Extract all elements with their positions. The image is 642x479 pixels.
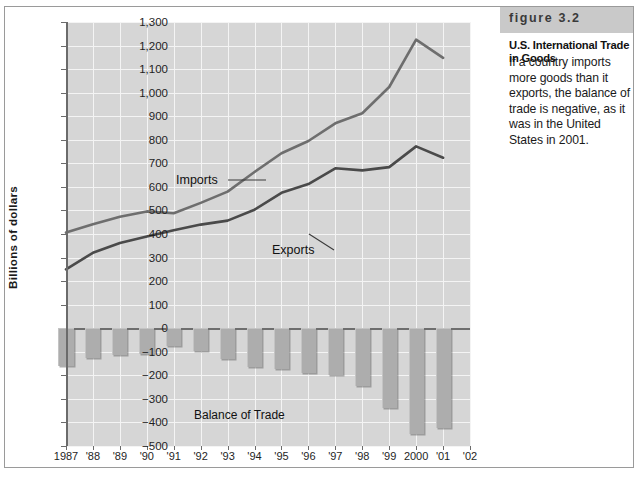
exports-label: Exports xyxy=(272,243,314,257)
y-axis-label: −100 xyxy=(142,346,168,358)
y-axis-label: 300 xyxy=(149,252,168,264)
plot-area xyxy=(66,22,470,446)
x-axis-label: '95 xyxy=(274,450,288,462)
y-axis-label: 1,200 xyxy=(139,40,168,52)
exports-line xyxy=(66,146,443,269)
x-axis-label: '93 xyxy=(220,450,234,462)
x-axis-label: 2000 xyxy=(404,450,428,462)
x-axis-label: '99 xyxy=(382,450,396,462)
y-axis-label: 700 xyxy=(149,157,168,169)
y-axis-label: 1,100 xyxy=(139,63,168,75)
x-axis-label: '90 xyxy=(140,450,154,462)
y-axis-label: 900 xyxy=(149,110,168,122)
figure-container: Billions of dollars Imports Exports Bala… xyxy=(0,0,642,479)
y-axis-label: 0 xyxy=(162,322,168,334)
x-axis-label: '89 xyxy=(113,450,127,462)
y-axis-label: 200 xyxy=(149,275,168,287)
y-axis-title: Billions of dollars xyxy=(6,186,19,289)
x-axis-label: 1987 xyxy=(54,450,78,462)
grid-line-horizontal xyxy=(66,446,470,447)
y-axis-label: −300 xyxy=(142,393,168,405)
y-axis-label: 800 xyxy=(149,134,168,146)
grid-line-vertical xyxy=(470,22,471,446)
caption-body: If a country imports more goods than it … xyxy=(509,55,633,149)
x-axis-label: '97 xyxy=(328,450,342,462)
x-axis-label: '96 xyxy=(301,450,315,462)
x-axis-label: '91 xyxy=(167,450,181,462)
y-axis-label: 500 xyxy=(149,204,168,216)
x-axis-label: '98 xyxy=(355,450,369,462)
x-axis-label: '01 xyxy=(436,450,450,462)
balance-of-trade-label: Balance of Trade xyxy=(194,408,285,422)
y-axis-label: 1,300 xyxy=(139,16,168,28)
x-axis-label: '92 xyxy=(193,450,207,462)
y-axis-label: 1,000 xyxy=(139,87,168,99)
x-axis-label: '88 xyxy=(86,450,100,462)
caption-panel: figure 3.2 U.S. International Trade in G… xyxy=(500,7,633,467)
x-axis-label: '02 xyxy=(463,450,477,462)
y-axis-label: −200 xyxy=(142,369,168,381)
y-axis-label: 100 xyxy=(149,299,168,311)
y-axis-label: −400 xyxy=(142,416,168,428)
y-axis-label: 600 xyxy=(149,181,168,193)
line-series-layer xyxy=(66,22,470,446)
imports-line xyxy=(66,40,443,233)
y-axis-line xyxy=(66,22,68,446)
figure-number: figure 3.2 xyxy=(509,11,581,25)
x-axis-label: '94 xyxy=(247,450,261,462)
imports-label: Imports xyxy=(176,173,218,187)
y-axis-label: 400 xyxy=(149,228,168,240)
